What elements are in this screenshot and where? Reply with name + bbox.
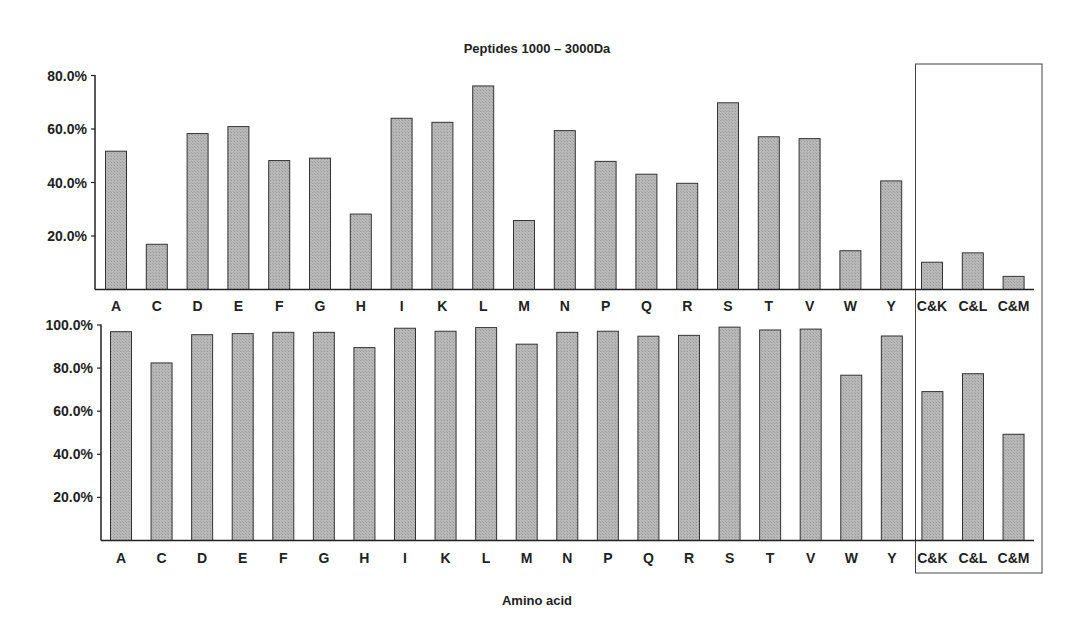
y-tick-label: 20.0% [53, 489, 93, 505]
x-tick-label: C&L [959, 550, 988, 566]
bar-w [841, 375, 862, 540]
bar-e [232, 334, 253, 541]
bar-r [677, 183, 698, 289]
top-x-axis-labels: ACDEFGHIKLMNPQRSTVWYC&KC&LC&M [111, 298, 1030, 314]
bar-d [192, 335, 213, 541]
bar-q [636, 174, 657, 289]
x-tick-label: T [765, 298, 774, 314]
y-tick-label: 100.0% [46, 317, 94, 333]
x-tick-label: C&K [917, 298, 947, 314]
bar-c [146, 244, 167, 289]
bar-k [435, 331, 456, 540]
bar-v [800, 329, 821, 540]
bar-c [151, 363, 172, 541]
bar-v [799, 139, 820, 290]
x-tick-label: Q [643, 550, 654, 566]
x-tick-label: M [521, 550, 533, 566]
bottom-x-axis-labels: ACDEFGHIKLMNPQRSTVWYC&KC&LC&M [116, 550, 1030, 566]
x-tick-label: V [805, 298, 815, 314]
x-tick-label: I [403, 550, 407, 566]
chart-title: Peptides 1000 – 3000Da [464, 41, 611, 56]
x-tick-label: V [806, 550, 816, 566]
x-tick-label: G [318, 550, 329, 566]
y-tick-label: 40.0% [47, 175, 87, 191]
x-tick-label: Q [641, 298, 652, 314]
x-tick-label: E [234, 298, 243, 314]
bar-e [228, 127, 249, 290]
x-tick-label: K [440, 550, 450, 566]
bar-l [473, 86, 494, 290]
bar-c-and-l [962, 253, 983, 290]
y-tick-label: 60.0% [53, 403, 93, 419]
x-tick-label: T [766, 550, 775, 566]
x-tick-label: D [193, 298, 203, 314]
x-tick-label: E [238, 550, 247, 566]
x-tick-label: I [400, 298, 404, 314]
x-tick-label: D [197, 550, 207, 566]
bar-p [595, 161, 616, 289]
y-tick-label: 60.0% [47, 121, 87, 137]
bar-l [476, 328, 497, 541]
x-tick-label: M [518, 298, 530, 314]
bar-c-and-l [962, 374, 983, 541]
bar-m [516, 344, 537, 540]
bar-s [718, 103, 739, 290]
x-tick-label: P [603, 550, 612, 566]
x-tick-label: C [157, 550, 167, 566]
bar-g [310, 158, 331, 289]
y-tick-label: 40.0% [53, 446, 93, 462]
bar-d [187, 134, 208, 290]
x-tick-label: K [437, 298, 447, 314]
bottom-y-axis-ticks: 20.0%40.0%60.0%80.0%100.0% [46, 317, 101, 505]
bar-n [554, 131, 575, 290]
top-bar-chart: 20.0%40.0%60.0%80.0% ACDEFGHIKLMNPQRSTVW… [47, 68, 1034, 315]
x-tick-label: R [684, 550, 694, 566]
bar-s [719, 327, 740, 540]
x-tick-label: C [152, 298, 162, 314]
x-tick-label: C&M [998, 550, 1030, 566]
x-tick-label: F [279, 550, 288, 566]
x-tick-label: C&K [917, 550, 947, 566]
y-tick-label: 80.0% [53, 360, 93, 376]
x-tick-label: H [356, 298, 366, 314]
y-tick-label: 20.0% [47, 228, 87, 244]
bar-n [557, 332, 578, 540]
x-tick-label: L [482, 550, 491, 566]
x-tick-label: G [315, 298, 326, 314]
x-tick-label: W [844, 298, 858, 314]
bar-m [514, 220, 535, 289]
top-y-axis-ticks: 20.0%40.0%60.0%80.0% [47, 68, 95, 245]
bar-i [394, 328, 415, 540]
x-axis-title: Amino acid [502, 593, 572, 608]
bar-a [111, 332, 132, 541]
y-tick-label: 80.0% [47, 68, 87, 84]
x-tick-label: W [845, 550, 859, 566]
bar-p [597, 331, 618, 540]
bar-i [391, 118, 412, 289]
bar-w [840, 251, 861, 290]
bar-k [432, 122, 453, 289]
bar-f [269, 161, 290, 290]
x-tick-label: N [562, 550, 572, 566]
x-tick-label: L [479, 298, 488, 314]
x-tick-label: P [601, 298, 610, 314]
bar-q [638, 336, 659, 540]
bar-f [273, 332, 294, 540]
bar-a [106, 151, 127, 289]
bar-t [760, 330, 781, 541]
bar-c-and-k [922, 262, 943, 289]
bar-c-and-k [922, 392, 943, 541]
bottom-bar-chart: 20.0%40.0%60.0%80.0%100.0% ACDEFGHIKLMNP… [46, 317, 1034, 566]
figure: Peptides 1000 – 3000Da 20.0%40.0%60.0%80… [0, 0, 1074, 628]
bar-g [313, 332, 334, 540]
bar-h [354, 348, 375, 541]
x-tick-label: C&M [998, 298, 1030, 314]
bar-r [678, 335, 699, 540]
x-tick-label: R [682, 298, 692, 314]
x-tick-label: S [725, 550, 734, 566]
bar-t [758, 137, 779, 290]
x-tick-label: A [111, 298, 121, 314]
x-tick-label: H [359, 550, 369, 566]
x-tick-label: N [560, 298, 570, 314]
bottom-bars [111, 327, 1025, 540]
